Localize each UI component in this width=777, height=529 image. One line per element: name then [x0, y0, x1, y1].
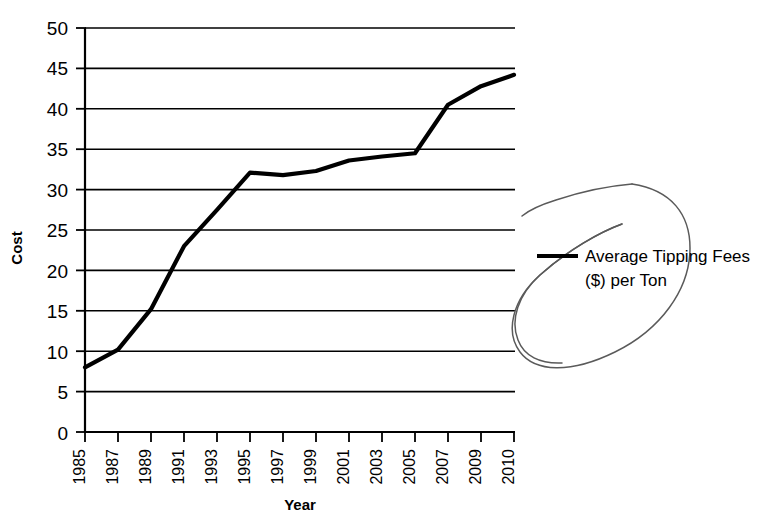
x-tick-label: 2005 — [401, 449, 418, 485]
chart-legend: Average Tipping Fees ($) per Ton — [537, 247, 750, 290]
y-tick-label: 10 — [47, 342, 68, 363]
y-tick-label: 0 — [57, 423, 68, 444]
y-tick-label: 35 — [47, 139, 68, 160]
x-tick-label: 2009 — [467, 449, 484, 485]
x-tick-label: 1991 — [170, 449, 187, 485]
data-series-line — [85, 75, 514, 368]
x-axis-title-text: Year — [284, 496, 316, 513]
y-tick-label: 50 — [47, 18, 68, 39]
y-tick-label: 15 — [47, 301, 68, 322]
x-tick-label: 2001 — [335, 449, 352, 485]
x-tick-label: 1989 — [137, 449, 154, 485]
chart-svg: Cost 50 45 40 35 30 25 20 15 10 5 0 — [0, 0, 777, 529]
y-tick-label: 30 — [47, 180, 68, 201]
x-tick-label: 2007 — [434, 449, 451, 485]
x-tick-label: 1997 — [269, 449, 286, 485]
y-tick-label: 5 — [57, 382, 68, 403]
x-tick-label: 1985 — [71, 449, 88, 485]
y-tick-labels: 50 45 40 35 30 25 20 15 10 5 0 — [47, 18, 68, 444]
legend-label-line1: Average Tipping Fees — [585, 247, 750, 266]
y-tick-label: 25 — [47, 220, 68, 241]
chart-figure: Cost 50 45 40 35 30 25 20 15 10 5 0 — [0, 0, 777, 529]
y-axis-title-text: Cost — [8, 231, 25, 264]
y-tick-label: 45 — [47, 58, 68, 79]
x-tick-labels: 1985 1987 1989 1991 1993 1995 1997 1999 … — [71, 449, 517, 485]
x-tick-label: 1987 — [104, 449, 121, 485]
y-axis-title: Cost — [8, 231, 25, 264]
y-tick-label: 20 — [47, 261, 68, 282]
x-tick-label: 2003 — [368, 449, 385, 485]
x-tick-label: 2010 — [500, 449, 517, 485]
y-tick-label: 40 — [47, 99, 68, 120]
legend-label-line2: ($) per Ton — [585, 271, 667, 290]
x-tick-marks — [85, 432, 514, 442]
x-tick-label: 1993 — [203, 449, 220, 485]
x-tick-label: 1999 — [302, 449, 319, 485]
x-tick-label: 1995 — [236, 449, 253, 485]
gridlines — [85, 28, 515, 392]
